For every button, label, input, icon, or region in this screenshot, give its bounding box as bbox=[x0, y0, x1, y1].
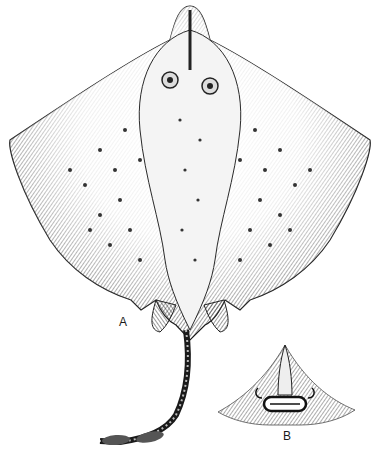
figure-label-b: B bbox=[283, 429, 291, 443]
ray-tail bbox=[100, 330, 188, 446]
figure-label-a: A bbox=[119, 315, 127, 329]
ray-illustration bbox=[0, 0, 381, 459]
mouth-detail-inset bbox=[218, 345, 355, 425]
ray-body bbox=[10, 6, 370, 340]
